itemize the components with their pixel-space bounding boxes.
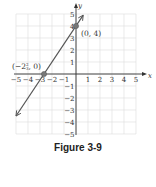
svg-text:−2: −2 xyxy=(64,95,74,103)
x-axis-label: x xyxy=(148,72,152,80)
svg-text:2: 2 xyxy=(98,76,102,84)
svg-text:−4: −4 xyxy=(64,119,75,127)
svg-text:2: 2 xyxy=(70,47,74,55)
svg-text:1: 1 xyxy=(86,76,90,84)
tick-labels: −5−4−3−2−112345−5−4−3−2−112345 xyxy=(11,11,138,139)
svg-text:−4: −4 xyxy=(23,76,34,84)
svg-text:5: 5 xyxy=(134,76,138,84)
svg-text:−5: −5 xyxy=(11,76,21,84)
figure-caption: Figure 3-9 xyxy=(0,142,156,153)
svg-text:1: 1 xyxy=(70,59,74,67)
y-axis-label: y xyxy=(77,2,83,10)
svg-text:−3: −3 xyxy=(64,107,74,115)
point-label-x-intercept: (−223, 0) xyxy=(12,62,41,71)
svg-text:−5: −5 xyxy=(64,131,74,139)
svg-text:4: 4 xyxy=(122,76,127,84)
svg-text:−1: −1 xyxy=(64,83,74,91)
point-label-y-intercept: (0, 4) xyxy=(81,29,101,38)
svg-text:3: 3 xyxy=(110,76,114,84)
coordinate-plane: −5−4−3−2−112345−5−4−3−2−112345 x y (0, 4… xyxy=(0,0,156,142)
svg-text:3: 3 xyxy=(70,35,74,43)
svg-text:5: 5 xyxy=(70,11,74,19)
svg-text:−2: −2 xyxy=(47,76,57,84)
